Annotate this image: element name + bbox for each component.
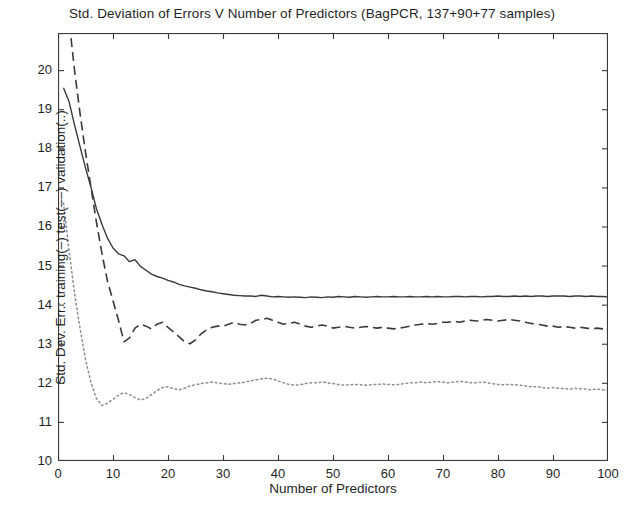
axis-box-group xyxy=(59,34,608,461)
x-tick-label: 10 xyxy=(93,466,133,481)
chart-figure: Std. Deviation of Errors V Number of Pre… xyxy=(0,0,624,507)
series-line-validation xyxy=(64,203,609,405)
x-tick-label: 90 xyxy=(533,466,573,481)
x-tick-label: 100 xyxy=(588,466,624,481)
y-axis-label: Std. Dev. Err.: training(–) test(––) val… xyxy=(53,38,68,458)
chart-title: Std. Deviation of Errors V Number of Pre… xyxy=(0,6,624,21)
y-axis-label-wrap: Std. Dev. Err.: training(–) test(––) val… xyxy=(18,0,38,480)
x-tick-label: 0 xyxy=(38,466,78,481)
x-tick-label: 20 xyxy=(148,466,188,481)
plot-area xyxy=(58,33,608,461)
series-group xyxy=(64,33,609,405)
plot-svg xyxy=(58,33,608,461)
axis-box xyxy=(59,34,608,461)
x-tick-label: 70 xyxy=(423,466,463,481)
series-line-training xyxy=(64,88,609,298)
x-axis-label: Number of Predictors xyxy=(58,481,608,496)
x-tick-label: 40 xyxy=(258,466,298,481)
axis-ticks-group xyxy=(58,33,608,461)
x-tick-label: 60 xyxy=(368,466,408,481)
x-tick-label: 80 xyxy=(478,466,518,481)
x-tick-label: 50 xyxy=(313,466,353,481)
x-tick-label: 30 xyxy=(203,466,243,481)
